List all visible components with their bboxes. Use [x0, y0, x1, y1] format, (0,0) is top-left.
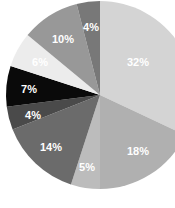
pie-slice-label: 6%: [32, 56, 48, 68]
pie-slice-label: 5%: [79, 161, 95, 173]
pie-slice-label: 4%: [83, 21, 99, 33]
pie-chart-container: 32%18%5%14%4%7%6%10%4%: [0, 0, 175, 208]
pie-slice-label: 7%: [21, 83, 37, 95]
pie-slice-label: 14%: [40, 141, 62, 153]
pie-slice-label: 18%: [127, 145, 149, 157]
pie-slice-label: 32%: [127, 56, 149, 68]
pie-slice-label: 4%: [25, 109, 41, 121]
pie-slice-label: 10%: [52, 33, 74, 45]
pie-chart-svg: 32%18%5%14%4%7%6%10%4%: [0, 0, 175, 208]
